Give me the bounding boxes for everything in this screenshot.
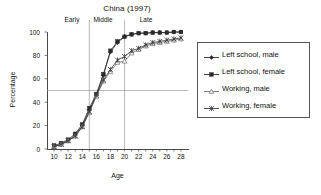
legend-marker-star-x-icon (203, 100, 220, 111)
y-tick-label: 80 (18, 52, 40, 59)
y-tick-label: 40 (18, 99, 40, 106)
y-axis-label-text: Percentage (9, 55, 16, 125)
x-tick-label: 26 (160, 153, 174, 160)
legend-marker-filled-diamond-icon (203, 49, 220, 60)
x-tick-label: 14 (75, 153, 89, 160)
x-tick-label: 20 (118, 153, 132, 160)
x-tick-label: 28 (174, 153, 188, 160)
legend-marker-filled-square-icon (203, 66, 220, 77)
y-tick-label: 0 (18, 146, 40, 153)
legend-item[interactable]: Working, male (203, 81, 309, 96)
legend-item[interactable]: Left school, male (203, 47, 309, 62)
x-tick-label: 22 (132, 153, 146, 160)
y-tick-label: 60 (18, 75, 40, 82)
legend-item[interactable]: Left school, female (203, 64, 309, 79)
x-tick-label: 16 (89, 153, 103, 160)
legend-marker-open-triangle-icon (203, 83, 220, 94)
chart-legend: Left school, maleLeft school, femaleWork… (197, 42, 310, 118)
plot-svg (47, 32, 188, 149)
x-tick-label: 12 (61, 153, 75, 160)
y-tick-label: 20 (18, 122, 40, 129)
x-tick-label: 10 (47, 153, 61, 160)
legend-label: Working, male (220, 84, 270, 93)
legend-label: Working, female (220, 101, 276, 110)
legend-label: Left school, female (220, 67, 285, 76)
plot-area (47, 32, 188, 149)
period-label-middle: Middle (84, 16, 122, 23)
period-label-late: Late (126, 16, 166, 23)
legend-item[interactable]: Working, female (203, 98, 309, 113)
x-axis-label: Age (47, 172, 188, 179)
x-tick-label: 18 (103, 153, 117, 160)
chart-container: China (1997) Early Middle Late Percentag… (0, 0, 321, 195)
legend-label: Left school, male (220, 50, 279, 59)
y-axis-label: Percentage (6, 55, 18, 125)
chart-title: China (1997) (62, 4, 192, 13)
y-tick-label: 100 (18, 29, 40, 36)
x-tick-label: 24 (146, 153, 160, 160)
